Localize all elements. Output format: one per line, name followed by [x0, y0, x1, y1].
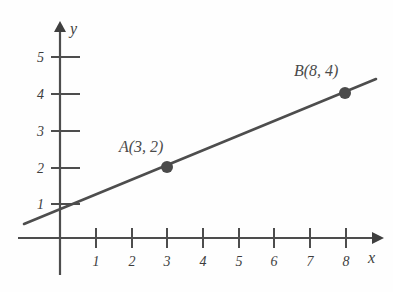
- data-point-b: [339, 87, 351, 99]
- y-tick-marks: [51, 57, 80, 204]
- x-tick-label-1: 1: [93, 254, 100, 269]
- plotted-line-ab: [24, 79, 376, 224]
- x-tick-label-8: 8: [343, 254, 350, 269]
- x-tick-labels: 1 2 3 4 5 6 7 8: [93, 254, 350, 269]
- x-tick-label-7: 7: [307, 254, 315, 269]
- y-tick-labels: 5 4 3 2 1: [36, 50, 44, 212]
- y-tick-label-4: 4: [37, 87, 44, 102]
- x-tick-label-6: 6: [271, 254, 278, 269]
- graph-canvas: 1 2 3 4 5 6 7 8 5 4 3 2 1 y x A(3, 2) B(…: [0, 0, 393, 292]
- y-axis-label: y: [68, 20, 78, 38]
- x-tick-label-5: 5: [236, 254, 243, 269]
- y-tick-label-2: 2: [37, 161, 44, 176]
- x-axis: [18, 232, 384, 244]
- point-label-b: B(8, 4): [294, 62, 338, 80]
- y-axis-arrow-icon: [54, 21, 66, 32]
- point-label-a: A(3, 2): [118, 138, 163, 156]
- y-tick-label-5: 5: [37, 50, 44, 65]
- data-point-a: [161, 161, 173, 173]
- x-tick-label-4: 4: [200, 254, 207, 269]
- x-axis-arrow-icon: [372, 232, 384, 244]
- y-tick-label-1: 1: [37, 197, 44, 212]
- x-tick-label-3: 3: [163, 254, 171, 269]
- coordinate-plane-figure: 1 2 3 4 5 6 7 8 5 4 3 2 1 y x A(3, 2) B(…: [0, 0, 393, 292]
- x-tick-label-2: 2: [129, 254, 136, 269]
- x-axis-label: x: [367, 249, 375, 266]
- y-tick-label-3: 3: [36, 124, 44, 139]
